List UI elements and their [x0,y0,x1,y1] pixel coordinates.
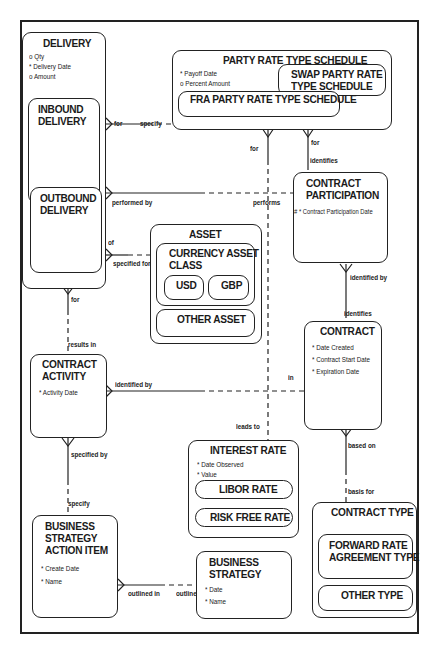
action-item-title: ACTION ITEM [45,544,108,556]
attribute: o Amount [29,72,71,82]
interest-rate-title: INTEREST RATE [210,444,286,456]
rel-label: performed by [112,199,152,207]
delivery-title: DELIVERY [43,37,91,49]
subtype-outbound-delivery[interactable]: OUTBOUND DELIVERY [30,187,102,273]
other-asset-title: OTHER ASSET [177,313,246,325]
fra-title: FRA PARTY RATE TYPE SCHEDULE [190,93,357,105]
libor-title: LIBOR RATE [219,483,277,495]
rel-label: in [288,374,294,382]
rel-label: performs [253,199,280,207]
subtype-forward-rate-agreement-type[interactable]: FORWARD RATE AGREEMENT TYPE [318,534,413,579]
rel-label: for [250,145,258,153]
rel-label: for [71,296,79,304]
rel-label: identifies [310,157,338,165]
subtype-libor-rate[interactable]: LIBOR RATE [195,480,293,499]
rel-label: basis for [348,488,374,496]
attribute: * Expiration Date [312,366,370,378]
attribute: * Payoff Date [180,69,230,79]
rel-label: specify [68,500,90,508]
attribute: * Date [205,584,226,596]
activity-title: CONTRACT [42,358,97,370]
subtype-gbp[interactable]: GBP [208,275,249,300]
entity-delivery[interactable]: DELIVERY o Qty * Delivery Date o Amount … [22,32,106,289]
rel-label: specified by [71,451,107,459]
attribute: * Contract Start Date [312,354,370,366]
strategy-title: STRATEGY [209,568,261,580]
subtype-fra-schedule[interactable]: FRA PARTY RATE TYPE SCHEDULE [178,91,340,117]
entity-asset[interactable]: ASSET CURRENCY ASSET CLASS USD GBP OTHER… [150,224,262,344]
subtype-other-asset[interactable]: OTHER ASSET [156,309,255,337]
usd-title: USD [176,279,197,291]
attribute: * Delivery Date [29,62,71,72]
attribute: o Percent Amount [180,79,230,89]
rel-label: outline [176,590,197,598]
rel-label: identified by [350,274,387,282]
subtype-risk-free-rate[interactable]: RISK FREE RATE [195,508,293,527]
entity-business-strategy[interactable]: BUSINESS STRATEGY * Date * Name [196,551,292,619]
contract-title: CONTRACT [320,325,375,337]
rel-label: leads to [236,423,260,431]
inbound-title: DELIVERY [38,115,86,127]
currency-class-title: CURRENCY ASSET [169,247,259,259]
rel-label: specify [140,120,162,128]
subtype-other-type[interactable]: OTHER TYPE [318,585,413,611]
attribute: * Date Observed [197,460,244,470]
entity-party-rate-type-schedule[interactable]: PARTY RATE TYPE SCHEDULE * Payoff Date o… [172,50,392,130]
attribute: * Activity Date [39,388,78,398]
subtype-currency-asset-class[interactable]: CURRENCY ASSET CLASS USD GBP [156,243,255,306]
contract-type-title: CONTRACT TYPE [331,506,414,518]
currency-class-title: CLASS [169,259,259,271]
rel-label: based on [348,442,376,450]
rel-label: results in [68,341,96,349]
fra-type-title: AGREEMENT TYPE [329,551,419,563]
action-item-title: STRATEGY [45,532,108,544]
entity-contract-type[interactable]: CONTRACT TYPE FORWARD RATE AGREEMENT TYP… [312,502,417,618]
participation-title: PARTICIPATION [306,189,379,201]
rel-label: outlined in [128,590,160,598]
rel-label: for [311,139,319,147]
attribute: * Name [205,596,226,608]
participation-title: CONTRACT [306,177,379,189]
rel-label: identified by [115,381,152,389]
attribute: * Name [41,575,79,588]
attribute: * Date Created [312,342,370,354]
activity-title: ACTIVITY [42,370,97,382]
rel-label: specified for [113,260,150,268]
inbound-title: INBOUND [38,103,86,115]
attribute: o Qty [29,52,71,62]
action-item-title: BUSINESS [45,520,108,532]
attribute: * Create Date [41,562,79,575]
rel-label: identifies [344,310,372,318]
other-type-title: OTHER TYPE [341,589,403,601]
entity-contract-activity[interactable]: CONTRACT ACTIVITY * Activity Date [30,354,107,438]
subtype-usd[interactable]: USD [164,275,204,300]
entity-interest-rate[interactable]: INTEREST RATE * Date Observed * Value LI… [188,440,299,538]
entity-contract-participation[interactable]: CONTRACT PARTICIPATION # * Contract Part… [293,172,388,263]
attribute: * Value [197,470,244,480]
entity-contract[interactable]: CONTRACT * Date Created * Contract Start… [304,321,382,430]
entity-business-strategy-action-item[interactable]: BUSINESS STRATEGY ACTION ITEM * Create D… [32,515,118,618]
strategy-title: BUSINESS [209,556,261,568]
outbound-title: DELIVERY [40,204,96,216]
rel-label: of [108,239,114,247]
swap-title: SWAP PARTY RATE [291,68,382,80]
fra-type-title: FORWARD RATE [329,539,419,551]
gbp-title: GBP [221,279,242,291]
risk-free-title: RISK FREE RATE [210,511,290,523]
asset-title: ASSET [189,228,221,240]
attribute: # * Contract Participation Date [294,207,373,217]
rel-label: for [114,120,122,128]
outbound-title: OUTBOUND [40,192,96,204]
